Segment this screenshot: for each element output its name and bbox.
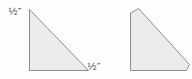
- right-triangle-shape: [30, 10, 89, 71]
- chamfered-triangle-shape: [131, 9, 190, 71]
- top-corner-dimension-label: ½″: [8, 6, 22, 17]
- diagram-canvas: ½″ ½″: [0, 0, 192, 79]
- bottom-corner-dimension-label: ½″: [87, 61, 101, 72]
- triangle-diagram: ½″ ½″: [0, 0, 192, 79]
